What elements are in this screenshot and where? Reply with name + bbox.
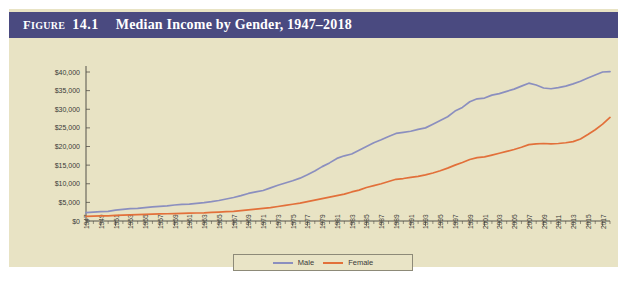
y-axis-tick-label: $40,000 [55, 69, 80, 76]
legend-swatch-male [273, 262, 293, 264]
y-axis-tick-label: $35,000 [55, 87, 80, 94]
y-axis-tick-label: $30,000 [55, 106, 80, 113]
legend-item-female: Female [323, 258, 373, 267]
legend-label-male: Male [298, 258, 314, 267]
legend-item-male: Male [273, 258, 314, 267]
chart-legend: Male Female [233, 254, 413, 271]
line-chart: $0$5,000$10,000$15,000$20,000$25,000$30,… [9, 42, 618, 267]
figure-label: FIGURE [23, 18, 65, 33]
y-axis-tick-label: $15,000 [55, 162, 80, 169]
y-axis-tick-label: $0 [72, 218, 80, 225]
legend-swatch-female [323, 262, 343, 264]
series-line-male [86, 72, 610, 213]
data-series-group [86, 72, 610, 217]
y-axis-tick-labels: $0$5,000$10,000$15,000$20,000$25,000$30,… [55, 69, 80, 225]
y-axis-tick-label: $10,000 [55, 180, 80, 187]
y-axis-tick-marks [86, 72, 90, 221]
figure-panel: FIGURE 14.1 Median Income by Gender, 194… [9, 9, 618, 267]
x-axis-tick-label: 2011 [555, 214, 562, 229]
figure-number: 14.1 [72, 17, 99, 33]
y-axis-tick-label: $20,000 [55, 143, 80, 150]
page-title: Median Income by Gender, 1947–2018 [116, 17, 352, 33]
legend-label-female: Female [348, 258, 373, 267]
y-axis-tick-label: $5,000 [59, 199, 81, 206]
y-axis-tick-label: $25,000 [55, 124, 80, 131]
figure-title-bar: FIGURE 14.1 Median Income by Gender, 194… [9, 12, 618, 38]
chart-plot-region: $0$5,000$10,000$15,000$20,000$25,000$30,… [9, 42, 618, 267]
series-line-female [86, 117, 610, 216]
